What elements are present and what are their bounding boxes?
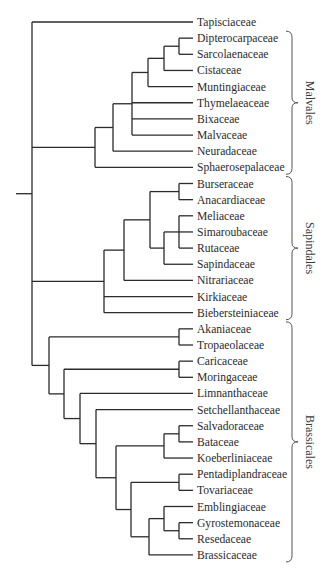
taxon-label: Rutaceae xyxy=(197,242,239,255)
taxon-label: Setchellanthaceae xyxy=(197,404,280,417)
taxon-label: Brassicaceae xyxy=(197,549,257,562)
taxon-label: Tovariaceae xyxy=(197,484,253,497)
order-label-malvales: Malvales xyxy=(303,81,317,125)
taxon-label: Anacardiaceae xyxy=(197,194,265,207)
taxon-label: Burseraceae xyxy=(197,178,254,191)
brace-malvales xyxy=(286,31,298,174)
order-label-sapindales: Sapindales xyxy=(303,222,317,274)
taxon-label: Malvaceae xyxy=(197,129,247,142)
taxon-label: Resedaceae xyxy=(197,533,251,546)
taxon-label: Muntingiaceae xyxy=(197,81,266,94)
brace-sapindales xyxy=(286,177,298,320)
taxon-label: Emblingiaceae xyxy=(197,501,266,514)
taxon-label: Sphaerosepalaceae xyxy=(197,161,285,174)
taxon-label: Moringaceae xyxy=(197,371,258,384)
taxon-label: Akaniaceae xyxy=(197,323,251,336)
taxon-labels: TapisciaceaeDipterocarpaceaeSarcolaenace… xyxy=(197,16,287,562)
taxon-label: Neuradaceae xyxy=(197,145,257,158)
taxon-label: Nitrariaceae xyxy=(197,274,254,287)
taxon-label: Bataceae xyxy=(197,436,239,449)
taxon-label: Biebersteiniaceae xyxy=(197,307,279,320)
taxon-label: Meliaceae xyxy=(197,210,245,223)
taxon-label: Kirkiaceae xyxy=(197,291,247,304)
taxon-label: Bixaceae xyxy=(197,113,239,126)
taxon-label: Pentadiplandraceae xyxy=(197,468,287,481)
taxon-label: Caricaceae xyxy=(197,355,248,368)
taxon-label: Tropaeolaceae xyxy=(197,339,264,352)
taxon-label: Koeberliniaceae xyxy=(197,452,272,465)
taxon-label: Simaroubaceae xyxy=(197,226,268,239)
brace-brassicales xyxy=(286,322,298,562)
taxon-label: Sapindaceae xyxy=(197,258,255,271)
phylogenetic-tree: TapisciaceaeDipterocarpaceaeSarcolaenace… xyxy=(0,0,336,575)
taxon-label: Thymelaeaceae xyxy=(197,97,269,110)
order-brackets: MalvalesSapindalesBrassicales xyxy=(286,31,317,562)
order-label-brassicales: Brassicales xyxy=(303,415,317,469)
tree-branches xyxy=(16,22,193,555)
taxon-label: Cistaceae xyxy=(197,64,241,77)
taxon-label: Salvadoraceae xyxy=(197,420,264,433)
taxon-label: Limnanthaceae xyxy=(197,387,268,400)
taxon-label: Dipterocarpaceae xyxy=(197,32,278,45)
taxon-label: Gyrostemonaceae xyxy=(197,517,280,530)
taxon-label: Sarcolaenaceae xyxy=(197,48,268,61)
taxon-label: Tapisciaceae xyxy=(197,16,256,29)
